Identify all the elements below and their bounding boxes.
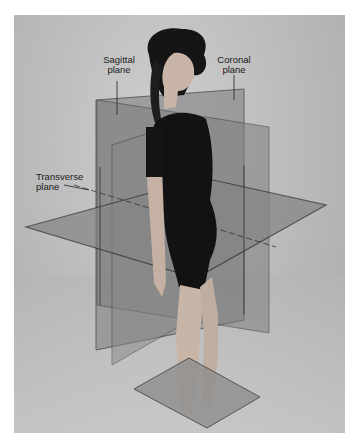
anatomical-planes-photo: Sagittal plane Coronal plane Transverse … bbox=[14, 15, 345, 433]
transverse-plane-label: Transverse plane bbox=[36, 172, 83, 192]
coronal-plane-label: Coronal plane bbox=[213, 55, 255, 75]
transverse-label-line2: plane bbox=[36, 182, 83, 192]
sagittal-label-line2: plane bbox=[98, 65, 140, 75]
coronal-label-line2: plane bbox=[213, 65, 255, 75]
planes-illustration bbox=[14, 15, 345, 433]
sagittal-plane-label: Sagittal plane bbox=[98, 55, 140, 75]
